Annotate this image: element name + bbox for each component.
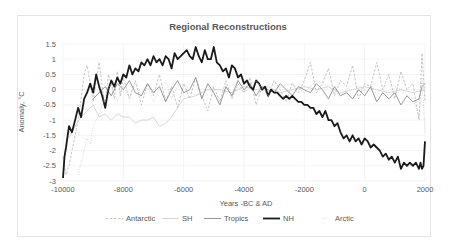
y-tick-label: -1 [49,116,56,125]
legend-label-nh: NH [283,214,294,223]
series-sh [69,87,425,139]
legend: AntarcticSHTropicsNHArctic [106,214,354,223]
y-tick-label: -2.5 [43,161,56,170]
x-axis-label: Years -BC & AD [219,199,273,208]
x-tick-label: 0 [363,185,367,194]
y-axis-label: Anomaly, °C [17,91,26,133]
x-tick-label: 2000 [417,185,434,194]
y-tick-label: -0.5 [43,100,56,109]
grid-lines [63,44,425,181]
x-tick-label: -6000 [174,185,193,194]
x-tick-label: -10000 [51,185,74,194]
y-axis-ticks: 1.510.50-0.5-1-1.5-2-2.5-3 [43,40,56,186]
legend-label-antarctic: Antarctic [126,214,155,223]
y-tick-label: 0.5 [46,70,56,79]
chart-title: Regional Reconstructions [169,21,287,32]
x-tick-label: -2000 [295,185,314,194]
series-arctic [78,78,425,175]
chart: Regional Reconstructions 1.510.50-0.5-1-… [0,0,456,250]
y-tick-label: 1.5 [46,40,56,49]
x-tick-label: -4000 [234,185,253,194]
x-axis-ticks: -10000-8000-6000-4000-200002000 [51,185,433,194]
legend-label-tropics: Tropics [224,214,249,223]
x-tick-label: -8000 [114,185,133,194]
legend-label-sh: SH [182,214,192,223]
y-tick-label: -1.5 [43,131,56,140]
y-tick-label: -2 [49,146,56,155]
y-tick-label: 1 [52,55,56,64]
y-tick-label: 0 [52,85,56,94]
legend-label-arctic: Arctic [335,214,354,223]
